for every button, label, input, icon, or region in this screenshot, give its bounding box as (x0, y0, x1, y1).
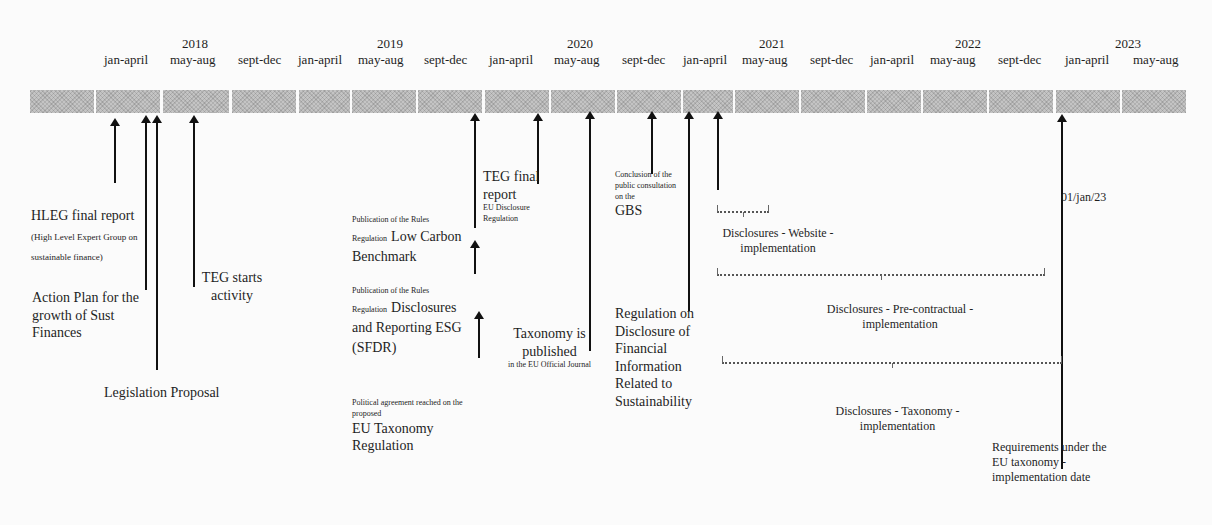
bar-segment (867, 90, 921, 113)
period-label: may-aug (742, 52, 787, 68)
event-prefix: Conclusion of the public consultation on… (615, 170, 680, 202)
arrow-up-icon (1061, 121, 1063, 469)
year-2021: 2021 (742, 36, 802, 52)
period-label: sept-dec (238, 52, 281, 68)
event-regulation-disclosure: Regulation on Disclosure of Financial In… (615, 305, 710, 410)
brace-precontractual (717, 268, 1045, 276)
bar-segment (163, 90, 229, 113)
event-prefix: Publication of the Rules (352, 286, 477, 297)
bar-segment (418, 90, 482, 113)
brace-taxonomy (722, 356, 1062, 364)
arrow-up-icon (688, 118, 690, 311)
bar-segment (551, 90, 615, 113)
event-title: Taxonomy is published (492, 325, 607, 360)
year-2018: 2018 (165, 36, 225, 52)
event-hleg: HLEG final report (High Level Expert Gro… (31, 205, 151, 265)
event-note: in the EU Official Journal (492, 360, 607, 371)
arrow-up-icon (717, 118, 719, 190)
event-sfdr: Publication of the Rules Regulation Disc… (352, 286, 477, 357)
bar-segment (683, 90, 733, 113)
period-label: jan-april (298, 52, 342, 68)
year-2020: 2020 (550, 36, 610, 52)
period-label: jan-april (104, 52, 148, 68)
range-precontractual: Disclosures - Pre-contractual - implemen… (800, 302, 1000, 332)
bar-segment (801, 90, 865, 113)
arrow-up-icon (474, 120, 476, 228)
event-requirements-taxonomy: Requirements under the EU taxonomy - imp… (992, 440, 1122, 485)
event-note: EU Disclosure Regulation (483, 203, 553, 225)
event-prefix2: Regulation (352, 234, 387, 243)
event-date-2023: 01/jan/23 (1061, 190, 1106, 205)
range-taxonomy: Disclosures - Taxonomy - implementation (810, 404, 985, 434)
bar-segment (923, 90, 987, 113)
bar-segment (735, 90, 799, 113)
event-prefix2: Regulation (352, 305, 387, 314)
arrow-up-icon (651, 118, 653, 174)
bar-segment (1056, 90, 1120, 113)
period-label: jan-april (489, 52, 533, 68)
arrow-up-icon (193, 122, 195, 287)
period-label: may-aug (170, 52, 215, 68)
event-prefix: Political agreement reached on the propo… (352, 398, 482, 420)
period-label: jan-april (1065, 52, 1109, 68)
bar-segment (232, 90, 296, 113)
bar-segment (96, 90, 160, 113)
event-prefix: Publication of the Rules (352, 215, 477, 226)
period-label: sept-dec (998, 52, 1041, 68)
period-label: sept-dec (810, 52, 853, 68)
period-label: sept-dec (622, 52, 665, 68)
bar-segment (485, 90, 549, 113)
arrow-up-icon (478, 318, 480, 358)
year-2022: 2022 (938, 36, 998, 52)
event-political-agreement: Political agreement reached on the propo… (352, 398, 482, 455)
event-teg-final: TEG final report EU Disclosure Regulatio… (483, 168, 553, 225)
period-label: may-aug (554, 52, 599, 68)
event-title: TEG final report (483, 168, 553, 203)
event-title: EU Taxonomy Regulation (352, 420, 482, 455)
year-2023: 2023 (1098, 36, 1158, 52)
event-note: (High Level Expert Group on sustainable … (31, 232, 137, 262)
brace-website (717, 205, 769, 213)
arrow-up-icon (114, 125, 116, 183)
period-label: may-aug (1133, 52, 1178, 68)
event-low-carbon: Publication of the Rules Regulation Low … (352, 215, 477, 266)
arrow-up-icon (589, 118, 591, 351)
period-label: sept-dec (424, 52, 467, 68)
bar-segment (617, 90, 681, 113)
range-website: Disclosures - Website - implementation (703, 226, 853, 256)
event-title: HLEG final report (31, 208, 134, 223)
event-gbs: Conclusion of the public consultation on… (615, 170, 680, 220)
bar-segment (1122, 90, 1186, 113)
bar-segment (989, 90, 1053, 113)
event-teg-starts: TEG starts activity (196, 269, 268, 304)
bar-segment (352, 90, 416, 113)
period-label: may-aug (358, 52, 403, 68)
arrow-up-icon (156, 122, 158, 370)
event-taxonomy-published: Taxonomy is published in the EU Official… (492, 325, 607, 371)
event-action-plan: Action Plan for the growth of Sust Finan… (32, 289, 152, 342)
period-label: jan-april (683, 52, 727, 68)
period-label: may-aug (930, 52, 975, 68)
period-label: jan-april (870, 52, 914, 68)
bar-segment (30, 90, 94, 113)
bar-segment (299, 90, 350, 113)
event-title: GBS (615, 202, 680, 220)
event-legislation-proposal: Legislation Proposal (104, 384, 244, 402)
year-2019: 2019 (360, 36, 420, 52)
